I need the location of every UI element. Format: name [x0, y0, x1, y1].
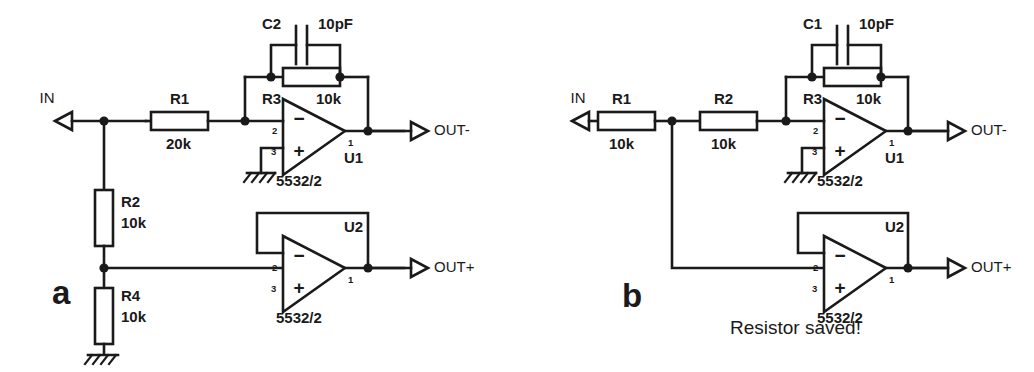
panel-b-in-port	[572, 112, 598, 130]
panel-b-r2	[672, 112, 786, 130]
panel-b-u2-inverting-sign: −	[834, 245, 845, 266]
panel-b-u2-part: 5532/2	[817, 309, 863, 326]
panel-a-r3-ref: R3	[262, 90, 281, 107]
panel-a-u2-pin-output: 1	[348, 274, 354, 285]
panel-a-u2-pin-noninverting: 3	[271, 283, 276, 294]
panel-b-label: b	[622, 277, 642, 314]
panel-a-out-plus-label: OUT+	[434, 258, 475, 275]
panel-b-u2-ref: U2	[885, 218, 904, 235]
panel-b-r3-value: 10k	[856, 90, 882, 107]
panel-b-u1-opamp	[786, 99, 945, 175]
panel-a-r3-value: 10k	[316, 90, 342, 107]
panel-a-u1-part: 5532/2	[276, 172, 322, 189]
panel-a-r2-value: 10k	[121, 214, 147, 231]
panel-b-r2-value: 10k	[711, 135, 737, 152]
panel-b-u1-inverting-sign: −	[834, 108, 845, 129]
panel-b-in-label: IN	[571, 89, 586, 106]
panel-a-out-minus-port	[368, 122, 428, 140]
panel-a: IN R1 20k R2 10k	[40, 15, 475, 364]
panel-a-u1-pin-inverting: 2	[272, 125, 277, 136]
circuit-schematic: IN R1 20k R2 10k	[0, 0, 1034, 372]
panel-b: IN R1 10k R2 10k b Resistor s	[571, 15, 1012, 338]
panel-a-u1-inverting-sign: −	[293, 108, 304, 129]
panel-b-r1	[598, 112, 672, 130]
panel-a-u2-pin-inverting: 2	[272, 262, 277, 273]
panel-a-u1-noninverting-sign: +	[293, 140, 304, 161]
panel-a-c2-value: 10pF	[318, 15, 353, 32]
panel-a-r3	[245, 68, 368, 86]
panel-b-out-plus-port	[908, 259, 965, 277]
panel-a-ground-icon	[85, 355, 118, 364]
panel-b-out-minus-port	[908, 122, 965, 140]
panel-b-u1-pin-output: 1	[889, 137, 895, 148]
panel-a-out-plus-port	[368, 259, 428, 277]
panel-a-r2	[95, 190, 113, 268]
panel-a-out-minus-label: OUT-	[434, 121, 470, 138]
panel-b-u1-pin-inverting: 2	[813, 125, 818, 136]
panel-b-u1-part: 5532/2	[817, 172, 863, 189]
panel-a-u2-part: 5532/2	[276, 309, 322, 326]
panel-a-r1-ref: R1	[170, 90, 189, 107]
panel-b-u1-noninverting-sign: +	[834, 140, 845, 161]
panel-a-in-label: IN	[40, 89, 55, 106]
panel-b-r2-ref: R2	[714, 90, 733, 107]
panel-a-u2-ref: U2	[344, 218, 363, 235]
panel-b-c1-ref: C1	[803, 15, 822, 32]
panel-b-r3-ref: R3	[803, 90, 822, 107]
panel-b-u2-pin-noninverting: 3	[812, 283, 817, 294]
panel-b-c1-value: 10pF	[859, 15, 894, 32]
panel-a-c2-ref: C2	[262, 15, 281, 32]
panel-a-u2-inverting-sign: −	[293, 245, 304, 266]
panel-a-r4-ref: R4	[121, 287, 141, 304]
panel-a-r1-value: 20k	[166, 135, 192, 152]
panel-a-u1-ref: U1	[344, 149, 363, 166]
panel-b-out-plus-label: OUT+	[971, 258, 1012, 275]
panel-b-u1-ref: U1	[885, 149, 904, 166]
panel-a-r2-ref: R2	[121, 193, 140, 210]
panel-a-u2-noninverting-sign: +	[293, 277, 304, 298]
panel-a-r4	[95, 268, 113, 354]
panel-b-r3	[786, 68, 908, 86]
panel-a-u1-opamp	[245, 99, 404, 175]
panel-b-r1-ref: R1	[612, 90, 631, 107]
panel-b-r1-value: 10k	[609, 135, 635, 152]
panel-a-r4-value: 10k	[121, 308, 147, 325]
panel-b-out-minus-label: OUT-	[971, 121, 1007, 138]
figure-canvas: IN R1 20k R2 10k	[0, 0, 1034, 372]
panel-b-mid-to-u2-wire	[672, 121, 824, 268]
panel-a-label: a	[52, 274, 71, 311]
panel-b-u2-pin-inverting: 2	[813, 262, 818, 273]
panel-b-u2-noninverting-sign: +	[834, 277, 845, 298]
panel-b-u2-pin-output: 1	[889, 274, 895, 285]
panel-a-r1	[146, 112, 245, 130]
panel-a-u1-pin-output: 1	[348, 137, 354, 148]
